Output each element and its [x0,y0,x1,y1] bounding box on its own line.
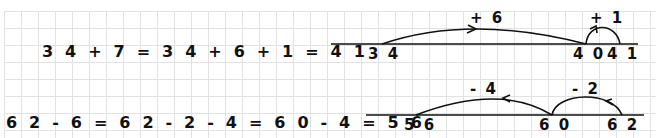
arrow-head-icon [503,95,510,102]
jump-label-plus-6: + 6 [470,9,504,27]
tick-label-60: 6 0 [539,116,571,134]
jump-plus-6-arc [382,29,586,44]
jump-minus-4-arc [416,99,552,115]
tick-label-40: 4 0 [573,45,605,63]
addition-number-line [331,25,638,44]
tick-label-41: 4 1 [607,45,639,63]
jump-label-plus-1: + 1 [590,9,624,27]
tick-label-56: 5 6 [404,116,436,134]
jump-label-minus-2: - 2 [572,80,600,98]
subtraction-number-line [366,95,644,115]
tick-label-62: 6 2 [607,116,639,134]
tick-label-34: 3 4 [368,45,400,63]
jump-label-minus-4: - 4 [470,80,498,98]
jump-plus-1-arc [586,28,620,45]
